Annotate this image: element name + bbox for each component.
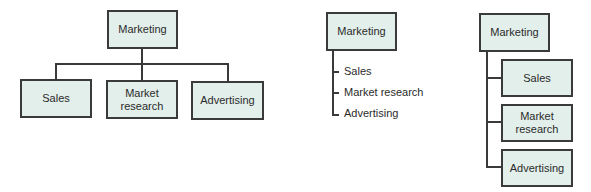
root-box: Marketing xyxy=(326,12,397,51)
connector xyxy=(55,63,57,80)
root-label: Marketing xyxy=(490,26,538,39)
connector xyxy=(332,51,334,115)
child-box-sales: Sales xyxy=(501,59,573,97)
root-box: Marketing xyxy=(107,10,178,49)
root-box: Marketing xyxy=(479,13,550,52)
child-label: Sales xyxy=(42,92,70,105)
connector xyxy=(332,92,339,94)
child-box-advertising: Advertising xyxy=(501,149,573,187)
list-item-sales: Sales xyxy=(344,65,372,78)
list-item-market-research: Market research xyxy=(344,86,423,99)
child-box-sales: Sales xyxy=(20,79,92,118)
child-label: Advertising xyxy=(200,94,254,107)
connector xyxy=(332,114,339,116)
list-item-advertising: Advertising xyxy=(344,107,398,120)
child-box-market-research: Market research xyxy=(501,104,573,142)
connector xyxy=(141,63,143,80)
child-box-market-research: Market research xyxy=(106,80,178,119)
child-label: Sales xyxy=(523,72,551,85)
connector xyxy=(332,71,339,73)
child-label: Advertising xyxy=(510,162,564,175)
root-label: Marketing xyxy=(118,23,166,36)
root-label: Marketing xyxy=(337,25,385,38)
child-box-advertising: Advertising xyxy=(191,81,264,120)
connector xyxy=(486,166,502,168)
connector xyxy=(486,121,502,123)
connector xyxy=(486,77,502,79)
child-label: Market research xyxy=(121,87,164,113)
child-label: Market research xyxy=(516,110,559,136)
connector xyxy=(486,52,488,168)
connector xyxy=(227,63,229,81)
